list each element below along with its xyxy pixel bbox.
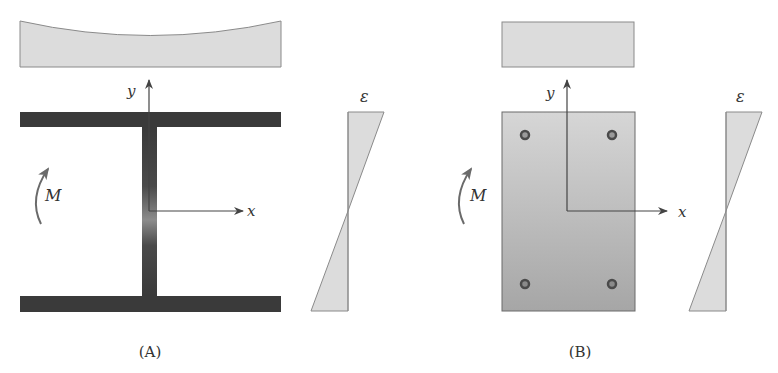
rebar-icon bbox=[521, 280, 529, 288]
rebar-icon bbox=[608, 131, 616, 139]
bottom-flange bbox=[20, 296, 281, 312]
caption-b: (B) bbox=[569, 343, 592, 361]
stress-block-b bbox=[502, 22, 634, 67]
panel-b: y x M ε (B) bbox=[459, 22, 762, 361]
top-flange bbox=[20, 112, 281, 127]
strain-label-b: ε bbox=[736, 87, 745, 106]
x-axis-label-b: x bbox=[678, 203, 687, 221]
stress-block-a bbox=[20, 21, 281, 67]
moment-label-b: M bbox=[469, 186, 487, 205]
bending-diagram: y x M ε (A) y x M ε bbox=[0, 0, 778, 373]
i-beam-section bbox=[20, 112, 281, 312]
caption-a: (A) bbox=[139, 343, 162, 361]
rebar-icon bbox=[608, 280, 616, 288]
strain-label-a: ε bbox=[360, 87, 369, 106]
rebar-icon bbox=[521, 131, 529, 139]
panel-a: y x M ε (A) bbox=[20, 21, 384, 361]
y-axis-label-b: y bbox=[545, 84, 555, 102]
y-axis-label-a: y bbox=[126, 82, 136, 100]
moment-label-a: M bbox=[44, 186, 62, 205]
x-axis-label-a: x bbox=[247, 202, 256, 220]
